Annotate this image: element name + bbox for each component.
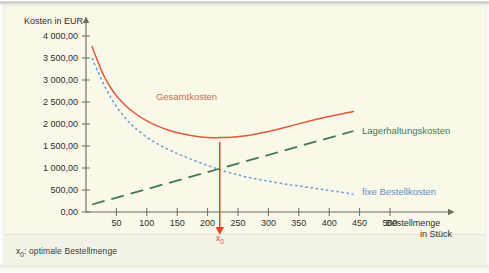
y-tick-label: 3 000,00 <box>43 75 78 85</box>
y-tick-label: 1 500,00 <box>43 141 78 151</box>
series-line-gesamtkosten <box>92 47 353 138</box>
series-line-fixe-bestellkosten <box>92 58 353 194</box>
x-axis-ticks: 50100150200250300350400450500 <box>111 208 397 228</box>
x-tick-label: 200 <box>200 218 215 228</box>
y-tick-label: 2 500,00 <box>43 97 78 107</box>
figure-container: x0: optimale Bestellmenge Kosten in EUR … <box>0 0 489 273</box>
chart-svg: Kosten in EUR 0,00500,001 000,001 500,00… <box>0 0 489 273</box>
x-tick-label: 250 <box>230 218 245 228</box>
x-tick-label: 450 <box>352 218 367 228</box>
series-label-gesamtkosten: Gesamtkosten <box>156 91 217 102</box>
x-tick-label: 300 <box>261 218 276 228</box>
x-tick-label: 150 <box>170 218 185 228</box>
series-line-lagerhaltungskosten <box>92 131 353 205</box>
x-tick-label: 50 <box>111 218 121 228</box>
x-tick-label: 400 <box>322 218 337 228</box>
y-axis-ticks: 0,00500,001 000,001 500,002 000,002 500,… <box>43 31 90 217</box>
y-axis-title: Kosten in EUR <box>24 16 84 26</box>
optimum-label: x0 <box>216 233 225 245</box>
x-tick-label: 350 <box>291 218 306 228</box>
y-tick-label: 1 000,00 <box>43 163 78 173</box>
x-axis-title-line1: Bestellmenge <box>386 218 441 228</box>
bottom-border-strip <box>0 265 489 273</box>
y-tick-label: 3 500,00 <box>43 53 78 63</box>
y-tick-label: 500,00 <box>50 185 78 195</box>
y-tick-label: 0,00 <box>60 207 78 217</box>
series-label-fixe-bestellkosten: fixe Bestellkosten <box>362 186 436 197</box>
series-label-lagerhaltungskosten: Lagerhaltungskosten <box>362 125 450 136</box>
y-tick-label: 4 000,00 <box>43 31 78 41</box>
x-axis-title-line2: in Stück <box>420 229 453 239</box>
y-tick-label: 2 000,00 <box>43 119 78 129</box>
x-tick-label: 100 <box>139 218 154 228</box>
